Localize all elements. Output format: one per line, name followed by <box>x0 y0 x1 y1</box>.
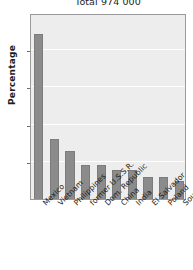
x-tick-label: Poland <box>166 201 172 207</box>
x-tick-label: Philippines <box>72 201 78 207</box>
x-tick-label: South Korea <box>181 201 187 207</box>
bar-chart-figure: Total 974 000 Percentage 0510152025 Mexi… <box>0 0 193 270</box>
x-axis-tick-labels: MexicoVietnamPhilippinesformer U.S.S.R.D… <box>30 201 186 270</box>
chart-title: Total 974 000 <box>30 0 186 7</box>
plot-area <box>30 14 186 200</box>
x-tick-label: China <box>119 201 125 207</box>
bars-group <box>31 15 185 199</box>
x-tick-label: Dom. Republic <box>103 201 109 207</box>
y-axis-label: Percentage <box>7 25 17 125</box>
x-tick-label: Vietnam <box>56 201 62 207</box>
x-tick-label: India <box>134 201 140 207</box>
x-tick-label: Mexico <box>41 201 47 207</box>
bar <box>34 34 43 199</box>
x-tick-label: El Salvador <box>150 201 156 207</box>
x-tick-label: former U.S.S.R. <box>88 201 94 207</box>
